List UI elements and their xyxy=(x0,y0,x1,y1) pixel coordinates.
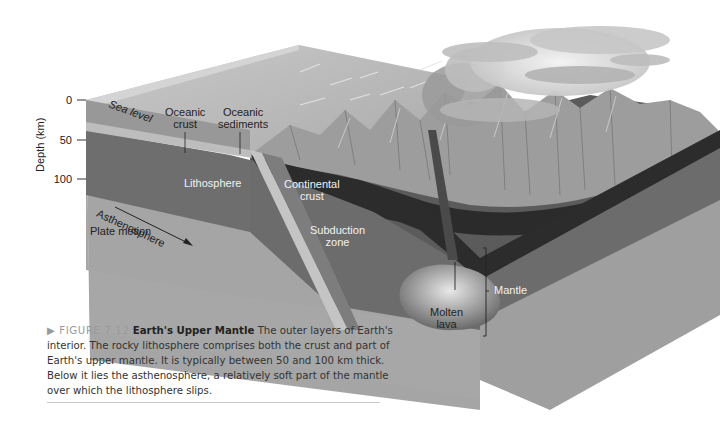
figure-number: ▶ FIGURE 7.12 xyxy=(47,325,130,336)
mantle-label: Mantle xyxy=(494,284,527,296)
molten-lava-label: Molten lava xyxy=(430,306,463,330)
caption-divider xyxy=(47,402,380,403)
plate-motion-label: Plate motion xyxy=(90,225,151,237)
figure-caption: ▶ FIGURE 7.12 Earth's Upper Mantle The o… xyxy=(47,323,412,398)
oceanic-sediments-label: Oceanic sediments xyxy=(218,106,268,130)
continental-crust-label: Continental crust xyxy=(284,178,340,202)
depth-tick-50: 50 xyxy=(42,134,72,146)
lithosphere-label: Lithosphere xyxy=(184,177,242,189)
oceanic-crust-label: Oceanic crust xyxy=(165,106,205,130)
depth-tick-0: 0 xyxy=(42,94,72,106)
depth-axis-ticks xyxy=(77,100,86,179)
subduction-zone-label: Subduction zone xyxy=(310,224,365,248)
depth-tick-100: 100 xyxy=(42,173,72,185)
figure-title: Earth's Upper Mantle xyxy=(133,325,255,336)
